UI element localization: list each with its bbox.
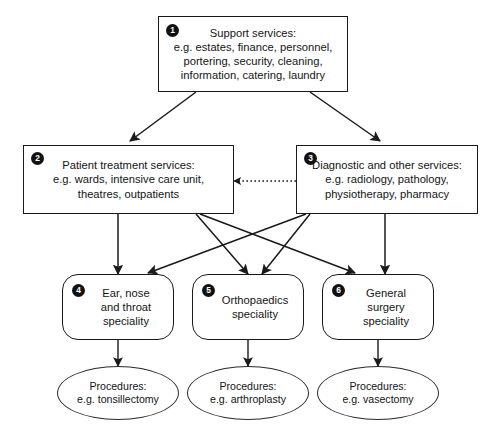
edge-support-to-diagnostic	[310, 92, 380, 141]
node-label-ent-speciality: Ear, nose and throat speciality	[85, 286, 151, 328]
node-label-support-services: Support services: e.g. estates, finance,…	[174, 26, 333, 82]
node-orthopaedics-speciality[interactable]: 5 Orthopaedics speciality	[192, 274, 304, 340]
edge-diagnostic-to-ent	[148, 214, 306, 273]
node-label-diagnostic-and-other-services: Diagnostic and other services: e.g. radi…	[312, 158, 462, 200]
node-procedures-vasectomy[interactable]: Procedures: e.g. vasectomy	[317, 366, 439, 420]
node-diagnostic-and-other-services[interactable]: 3 Diagnostic and other services: e.g. ra…	[296, 145, 478, 214]
node-procedures-arthroplasty[interactable]: Procedures: e.g. arthroplasty	[187, 366, 309, 420]
node-general-surgery-speciality[interactable]: 6 General surgery speciality	[322, 274, 434, 340]
node-badge-5: 5	[202, 284, 215, 297]
node-patient-treatment-services[interactable]: 2 Patient treatment services: e.g. wards…	[23, 145, 234, 214]
node-label-orthopaedics-speciality: Orthopaedics speciality	[208, 293, 289, 321]
node-badge-1: 1	[166, 24, 179, 37]
node-badge-3: 3	[304, 152, 317, 165]
node-label-procedures-arthroplasty: Procedures: e.g. arthroplasty	[210, 380, 286, 407]
node-label-general-surgery-speciality: General surgery speciality	[347, 286, 409, 328]
services-hierarchy-diagram: 1 Support services: e.g. estates, financ…	[0, 0, 494, 425]
node-label-procedures-vasectomy: Procedures: e.g. vasectomy	[342, 380, 413, 407]
node-ent-speciality[interactable]: 4 Ear, nose and throat speciality	[62, 274, 174, 340]
node-badge-2: 2	[31, 152, 44, 165]
edge-diagnostic-to-orthopaedics	[262, 214, 310, 274]
node-label-patient-treatment-services: Patient treatment services: e.g. wards, …	[53, 158, 204, 200]
node-procedures-tonsillectomy[interactable]: Procedures: e.g. tonsillectomy	[57, 366, 179, 420]
node-badge-4: 4	[72, 284, 85, 297]
edge-support-to-patient	[130, 92, 196, 141]
node-badge-6: 6	[332, 284, 345, 297]
node-support-services[interactable]: 1 Support services: e.g. estates, financ…	[158, 16, 348, 92]
node-label-procedures-tonsillectomy: Procedures: e.g. tonsillectomy	[77, 380, 159, 407]
edge-patient-to-general-surgery	[200, 214, 355, 273]
